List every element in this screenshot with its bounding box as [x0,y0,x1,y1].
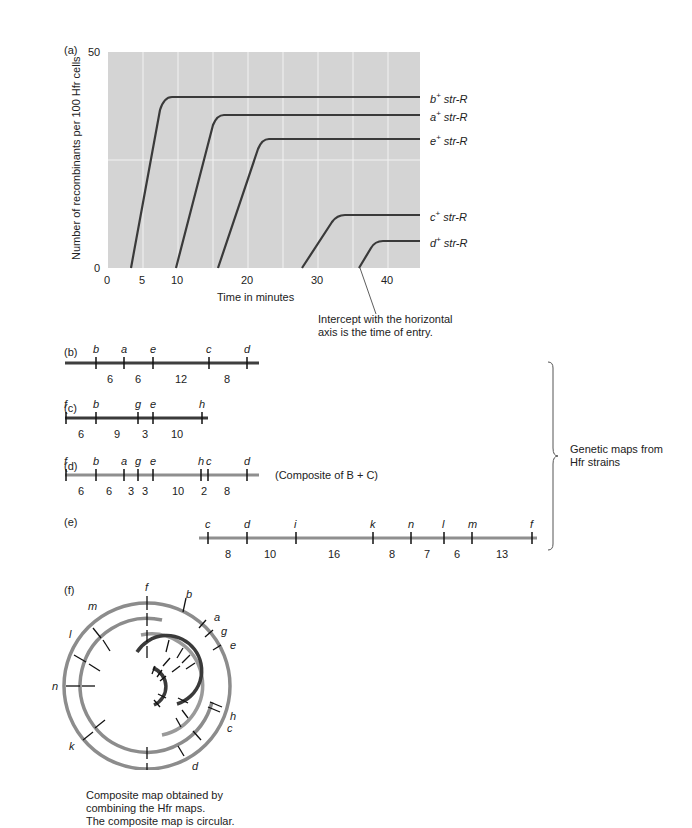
legend-c: c+ str-R [430,209,467,223]
svg-text:c: c [205,518,211,530]
svg-text:6: 6 [78,485,84,497]
x-tick-40: 40 [381,274,393,286]
svg-text:6: 6 [454,548,460,560]
svg-text:e: e [230,639,236,651]
svg-text:m: m [88,600,97,612]
svg-text:k: k [370,518,376,530]
svg-text:6: 6 [78,428,84,440]
svg-text:b: b [93,343,99,355]
svg-text:h: h [230,710,236,722]
svg-text:7: 7 [424,548,430,560]
svg-text:8: 8 [224,373,230,385]
svg-text:10: 10 [172,485,184,497]
x-tick-5: 5 [139,274,145,286]
svg-text:10: 10 [171,428,183,440]
legend-suffix: str-R [441,111,468,123]
brace [548,362,558,550]
svg-text:8: 8 [224,485,230,497]
svg-text:12: 12 [175,373,187,385]
svg-text:(Composite of B + C): (Composite of B + C) [275,469,378,481]
map-c-arc [137,636,202,704]
map-e-arc [80,618,212,752]
brace-label: Genetic maps from Hfr strains [570,443,663,469]
svg-text:3: 3 [142,485,148,497]
legend-e: e+ str-R [430,133,467,147]
caption-line-1: Composite map obtained by [86,789,235,802]
legend-suffix: str-R [441,93,468,105]
svg-text:16: 16 [328,548,340,560]
legend-suffix: str-R [441,237,468,249]
svg-text:9: 9 [114,428,120,440]
svg-text:g: g [135,398,142,410]
caption-line-3: The composite map is circular. [86,815,235,828]
svg-text:10: 10 [264,548,276,560]
map-b: b a e c d 6 6 12 8 [65,343,259,385]
legend-a: a+ str-R [430,109,467,123]
brace-label-line-2: Hfr strains [570,456,663,469]
svg-text:a: a [214,611,220,623]
svg-text:3: 3 [142,428,148,440]
x-tick-20: 20 [241,274,253,286]
map-c: f b g e h 6 9 3 10 [64,398,208,440]
x-tick-30: 30 [311,274,323,286]
svg-text:g: g [135,455,142,467]
svg-text:c: c [206,343,212,355]
svg-text:f: f [64,398,68,410]
svg-text:f: f [145,581,149,593]
svg-text:e: e [150,398,156,410]
svg-text:f: f [64,455,68,467]
svg-text:8: 8 [389,548,395,560]
svg-text:k: k [69,740,75,752]
legend-b: b+ str-R [430,91,467,105]
svg-text:n: n [408,518,414,530]
svg-text:d: d [192,760,199,770]
legend-suffix: str-R [440,211,467,223]
svg-text:b: b [93,398,99,410]
svg-text:6: 6 [107,373,113,385]
svg-text:e: e [150,455,156,467]
svg-text:a: a [121,343,127,355]
brace-label-line-1: Genetic maps from [570,443,663,456]
circular-map: f b a g e h c d i k n l m [0,570,300,770]
svg-text:b: b [93,455,99,467]
svg-text:3: 3 [128,485,134,497]
svg-text:l: l [442,518,445,530]
x-tick-0: 0 [104,274,110,286]
svg-text:13: 13 [496,548,508,560]
legend-suffix: str-R [441,135,468,147]
svg-text:d: d [244,518,251,530]
svg-text:g: g [221,625,228,637]
caption-line-2: combining the Hfr maps. [86,802,235,815]
svg-text:d: d [244,343,251,355]
circular-map-caption: Composite map obtained by combining the … [86,789,235,828]
svg-text:n: n [52,680,58,692]
svg-text:c: c [206,455,212,467]
map-e: c d i k n l m f 8 10 16 8 7 6 13 [199,518,537,560]
svg-text:8: 8 [225,548,231,560]
svg-text:l: l [69,628,72,640]
svg-text:f: f [530,518,534,530]
x-axis-label: Time in minutes [217,291,294,303]
svg-text:a: a [121,455,127,467]
svg-text:c: c [227,722,233,734]
svg-text:6: 6 [135,373,141,385]
legend-d: d+ str-R [430,235,467,249]
map-d: f b a g e h c d 6 6 3 3 10 2 8 (Composit… [64,455,378,497]
svg-text:i: i [294,518,297,530]
svg-text:6: 6 [106,485,112,497]
svg-text:b: b [186,588,192,600]
svg-text:m: m [468,518,477,530]
svg-text:h: h [198,455,204,467]
annotation-pointer [360,268,376,314]
svg-text:2: 2 [201,485,207,497]
svg-text:d: d [244,455,251,467]
svg-text:h: h [199,398,205,410]
x-tick-10: 10 [171,274,183,286]
annotation-line-1: Intercept with the horizontal [318,313,453,326]
svg-text:e: e [150,343,156,355]
